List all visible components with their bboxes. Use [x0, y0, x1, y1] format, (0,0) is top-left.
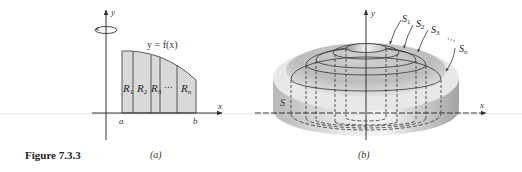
left-bound-a: a	[119, 116, 124, 126]
right-bound-b: b	[193, 116, 198, 126]
y-axis-label-a: y	[110, 7, 115, 17]
panel-b-label: (b)	[358, 149, 370, 161]
x-axis-label-a: x	[217, 101, 222, 111]
solid-label-s: S	[280, 97, 285, 108]
panel-a: y x y = f(x) a b R1 R2 R3 ⋯ Rn (a)	[92, 7, 222, 161]
shell-label-s1: S1	[402, 13, 411, 26]
y-axis-label-b: y	[370, 8, 375, 18]
shell-label-sn: Sn	[459, 43, 468, 56]
figure-7-3-3: y x y = f(x) a b R1 R2 R3 ⋯ Rn (a)	[0, 0, 522, 172]
shell-label-ellipsis: ⋯	[445, 33, 457, 45]
panel-a-label: (a)	[150, 149, 162, 161]
region-label-ellipsis: ⋯	[164, 83, 173, 93]
x-axis-label-b: x	[479, 100, 484, 110]
shell-label-s2: S2	[416, 18, 425, 31]
shell-label-s3: S3	[431, 24, 440, 37]
curve-label: y = f(x)	[147, 39, 178, 51]
figure-caption: Figure 7.3.3	[25, 149, 81, 161]
panel-b: y x S S1 S2 S3 ⋯ Sn (b)	[255, 8, 486, 161]
